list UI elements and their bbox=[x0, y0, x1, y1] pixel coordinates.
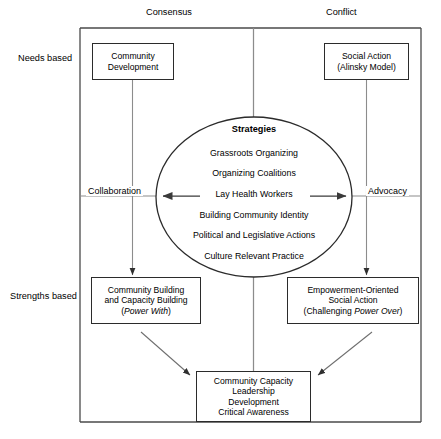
box-community-building-line3: (Power With) bbox=[121, 306, 171, 316]
power-over-paren-close: ) bbox=[400, 306, 403, 316]
circle-item-1: Grassroots Organizing bbox=[156, 148, 352, 158]
circle-item-6: Culture Relevant Practice bbox=[156, 251, 352, 261]
power-over-prefix: (Challenging bbox=[304, 306, 355, 316]
box-social-action: Social Action (Alinsky Model) bbox=[324, 43, 409, 80]
box-outcomes-line1: Community Capacity bbox=[214, 376, 293, 386]
circle-item-4: Building Community Identity bbox=[156, 210, 352, 220]
label-collaboration: Collaboration bbox=[86, 186, 143, 196]
label-strengths-based: Strengths based bbox=[10, 291, 77, 302]
power-with-paren-close: ) bbox=[168, 306, 171, 316]
box-empowerment-line1: Empowerment-Oriented bbox=[307, 285, 398, 295]
label-conflict: Conflict bbox=[326, 7, 357, 18]
box-social-action-line2: (Alinsky Model) bbox=[337, 62, 396, 72]
power-over-term: Power Over bbox=[354, 306, 399, 316]
label-advocacy: Advocacy bbox=[366, 186, 409, 196]
circle-title: Strategies bbox=[156, 124, 352, 134]
box-community-development-line2: Development bbox=[108, 62, 159, 72]
box-outcomes-line3: Development bbox=[228, 397, 279, 407]
box-empowerment-social-action: Empowerment-Oriented Social Action (Chal… bbox=[287, 277, 419, 324]
label-consensus: Consensus bbox=[146, 7, 192, 18]
box-outcomes-line4: Critical Awareness bbox=[218, 407, 289, 417]
box-community-development-line1: Community bbox=[111, 51, 154, 61]
diagonal-arrows bbox=[141, 332, 372, 375]
box-social-action-line1: Social Action bbox=[342, 51, 391, 61]
strategies-circle-content: Strategies Grassroots Organizing Organiz… bbox=[156, 117, 352, 277]
diagram-canvas: Consensus Conflict Needs based Strengths… bbox=[0, 0, 441, 439]
box-community-development: Community Development bbox=[92, 43, 174, 80]
circle-item-5: Political and Legislative Actions bbox=[156, 230, 352, 240]
box-empowerment-line3: (Challenging Power Over) bbox=[304, 306, 403, 316]
power-with-term: Power With bbox=[124, 306, 168, 316]
box-outcomes: Community Capacity Leadership Developmen… bbox=[196, 371, 311, 422]
box-community-building-line2: and Capacity Building bbox=[104, 295, 187, 305]
box-outcomes-line2: Leadership bbox=[232, 386, 275, 396]
box-empowerment-line2: Social Action bbox=[328, 295, 377, 305]
box-community-building-line1: Community Building bbox=[108, 285, 184, 295]
box-community-building: Community Building and Capacity Building… bbox=[91, 277, 201, 324]
label-needs-based: Needs based bbox=[18, 53, 72, 64]
circle-item-3: Lay Health Workers bbox=[156, 189, 352, 199]
circle-item-2: Organizing Coalitions bbox=[156, 168, 352, 178]
